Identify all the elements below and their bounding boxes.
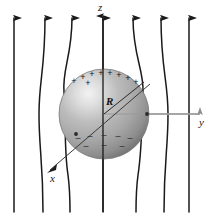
- positive-charge-symbol: +: [116, 70, 121, 80]
- negative-charge-symbol: –: [101, 130, 106, 140]
- negative-charge-symbol: –: [87, 131, 92, 141]
- z-axis-label: z: [98, 2, 102, 13]
- y-axis-dot-marker: [145, 112, 149, 116]
- positive-charge-symbol: +: [133, 77, 138, 87]
- x-axis-label: x: [50, 173, 55, 184]
- positive-charge-symbol: +: [85, 78, 90, 88]
- positive-charge-symbol: +: [98, 68, 103, 78]
- negative-charge-symbol: –: [83, 141, 88, 151]
- y-axis-label: y: [199, 117, 204, 128]
- negative-charge-symbol: –: [101, 140, 106, 150]
- negative-charge-symbol: –: [75, 133, 80, 143]
- figure-canvas: +++++++++––––––––: [0, 0, 212, 220]
- negative-charge-symbol: –: [115, 131, 120, 141]
- negative-charge-symbol: –: [119, 141, 124, 151]
- field-line-6: [161, 18, 168, 212]
- positive-charge-symbol: +: [125, 73, 130, 83]
- negative-charge-symbol: –: [127, 133, 132, 143]
- physics-figure: +++++++++–––––––– z y x R: [0, 0, 212, 220]
- positive-charge-symbol: +: [107, 68, 112, 78]
- field-line-2: [39, 18, 45, 212]
- positive-charge-symbol: +: [71, 76, 76, 86]
- sphere-radius-label: R: [106, 96, 113, 107]
